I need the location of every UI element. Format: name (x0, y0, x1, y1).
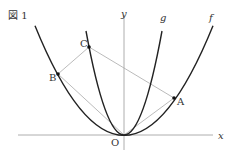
point-A (172, 96, 176, 100)
point-B-label: B (49, 72, 56, 83)
figure-title: 図 1 (8, 10, 28, 21)
origin-label: O (111, 137, 119, 148)
x-axis-label: x (218, 130, 224, 141)
point-C-label: C (80, 38, 88, 49)
curve-g-label: g (160, 12, 166, 23)
figure-1: 図 1 y x O g f A B C (0, 0, 229, 155)
diagram-canvas: 図 1 y x O g f A B C (0, 0, 229, 155)
y-axis-label: y (120, 8, 127, 19)
curve-f-label: f (208, 12, 215, 23)
point-C (87, 45, 91, 49)
point-B (56, 72, 60, 76)
point-A-label: A (176, 96, 185, 107)
